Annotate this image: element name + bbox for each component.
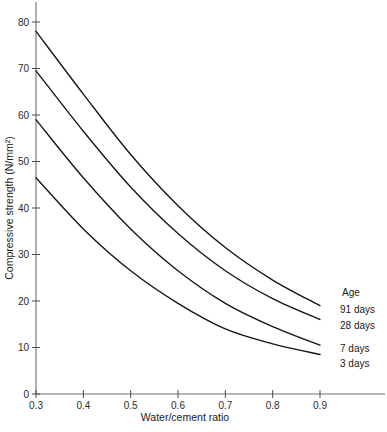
x-axis-ticks: 0.30.40.50.60.70.80.9 [29,390,327,411]
y-tick-label: 20 [18,296,30,307]
legend-title: Age [342,287,360,298]
x-axis-title: Water/cement ratio [141,411,229,423]
y-tick-label: 80 [18,17,30,28]
y-tick-label: 0 [23,389,29,400]
chart-figure: 01020304050607080 0.30.40.50.60.70.80.9 … [0,0,387,432]
y-tick-label: 30 [18,249,30,260]
plot-axes [36,2,385,394]
series-label-3-days: 3 days [340,358,369,369]
series-label-91-days: 91 days [340,304,375,315]
y-tick-label: 10 [18,342,30,353]
data-curve-91-days [36,31,320,305]
x-tick-label: 0.3 [29,400,43,411]
y-axis-title: Compressive strength (N/mm²) [3,136,15,280]
x-tick-label: 0.4 [76,400,90,411]
y-tick-label: 50 [18,156,30,167]
x-tick-label: 0.7 [218,400,232,411]
x-tick-label: 0.5 [124,400,138,411]
compressive-strength-line-chart: 01020304050607080 0.30.40.50.60.70.80.9 … [0,0,387,432]
x-tick-label: 0.6 [171,400,185,411]
series-label-28-days: 28 days [340,320,375,331]
series-label-7-days: 7 days [340,343,369,354]
y-tick-label: 40 [18,203,30,214]
y-tick-label: 60 [18,110,30,121]
x-tick-label: 0.8 [266,400,280,411]
y-axis-ticks: 01020304050607080 [18,17,40,400]
data-curve-7-days [36,120,320,346]
y-tick-label: 70 [18,63,30,74]
data-series-group [36,31,320,354]
series-labels-group: 91 days28 days7 days3 days [340,304,375,369]
x-tick-label: 0.9 [313,400,327,411]
